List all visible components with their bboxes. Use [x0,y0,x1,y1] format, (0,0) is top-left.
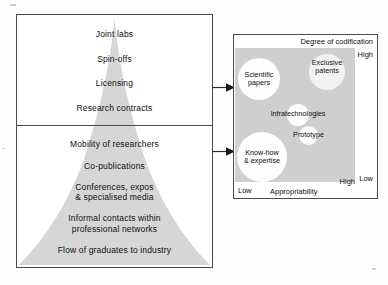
codification-appropriability-chart: Degree of codification Scientific papers… [233,34,378,199]
y-axis-tick-low: Low [359,174,373,183]
transfer-channels-box: Joint labs Spin-offs Licensing Research … [16,14,213,268]
data-point-label: Exclusive patents [304,59,350,76]
channel-item: Joint labs [96,29,133,40]
x-axis-label: Appropriability [270,187,318,196]
channel-item: Licensing [96,78,133,89]
data-point-label: Scientific papers [245,71,274,88]
y-axis-label: Degree of codification [300,37,373,46]
data-point-label: Know-how & expertise [244,149,280,166]
channel-item: Flow of graduates to industry [58,245,172,256]
formal-channels-panel: Joint labs Spin-offs Licensing Research … [17,15,212,125]
data-point-label: Infratechnologies [261,110,335,118]
figure-canvas: Joint labs Spin-offs Licensing Research … [0,0,388,285]
scan-speck [372,268,376,270]
data-point-bubble: Know-how & expertise [237,132,287,182]
scan-speck [10,4,16,6]
x-axis-tick-high: High [340,177,355,186]
channel-item: Mobility of researchers [70,139,159,150]
plot-area: Scientific papers Exclusive patents Infr… [235,48,355,182]
informal-channels-panel: Mobility of researchers Co-publications … [17,126,212,267]
channel-item: Informal contacts within professional ne… [68,213,160,234]
channel-item: Research contracts [77,103,153,114]
channel-item: Spin-offs [97,54,132,65]
y-axis-tick-high: High [358,50,373,59]
x-axis-tick-low: Low [238,186,252,195]
scan-speck [2,148,5,149]
data-point-label: Prototype [284,131,333,139]
data-point-bubble: Scientific papers [238,58,280,100]
channel-item: Co-publications [84,161,145,172]
channel-item: Conferences, expos & specialised media [75,182,153,203]
